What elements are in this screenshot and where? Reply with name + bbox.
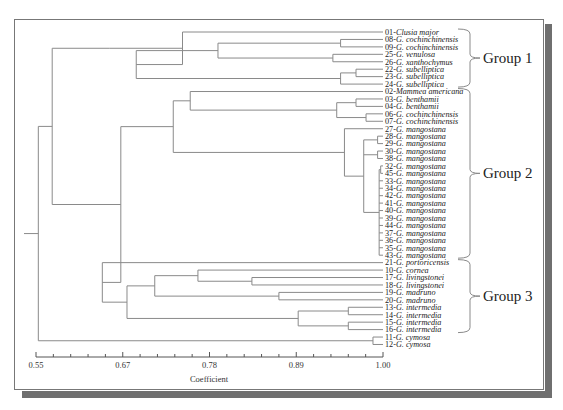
group-label: Group 1 bbox=[483, 50, 533, 66]
group-bracket bbox=[458, 29, 480, 87]
x-tick-label: 0.89 bbox=[289, 360, 304, 370]
group-bracket bbox=[458, 89, 480, 259]
x-tick-label: 0.67 bbox=[115, 360, 130, 370]
leaf-labels: 01-Clusia major08-G. cochinchinensis09-G… bbox=[385, 28, 463, 349]
dendrogram-branches bbox=[24, 32, 383, 344]
x-tick-label: 0.55 bbox=[29, 360, 44, 370]
group-brackets: Group 1Group 2Group 3 bbox=[458, 29, 533, 333]
x-tick-label: 0.78 bbox=[202, 360, 217, 370]
x-axis: 0.550.670.780.891.00 bbox=[29, 352, 391, 370]
dendrogram-plot: 01-Clusia major08-G. cochinchinensis09-G… bbox=[0, 0, 563, 410]
x-tick-label: 1.00 bbox=[376, 360, 391, 370]
x-axis-label: Coefficient bbox=[190, 374, 229, 384]
leaf-label: 12-G. cymosa bbox=[385, 340, 430, 349]
group-label: Group 3 bbox=[483, 288, 533, 304]
group-bracket bbox=[458, 260, 480, 333]
group-label: Group 2 bbox=[483, 165, 533, 181]
